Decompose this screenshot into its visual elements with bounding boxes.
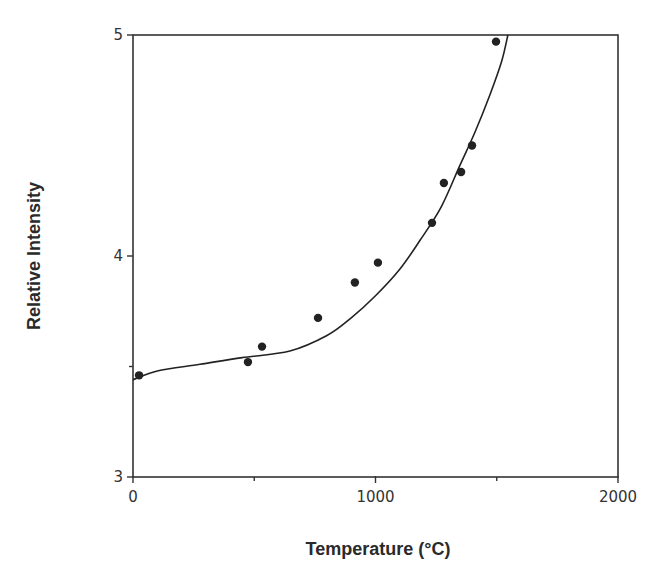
chart: 010002000 345 Temperature (°C) Relative … — [0, 0, 661, 585]
plot-frame — [133, 35, 618, 477]
data-point — [258, 342, 266, 350]
data-point — [428, 219, 436, 227]
data-point — [374, 258, 382, 266]
axis-ticks — [127, 35, 618, 483]
y-tick-label: 3 — [113, 468, 123, 486]
x-tick-labels: 010002000 — [128, 488, 637, 506]
x-tick-label: 1000 — [356, 488, 394, 506]
plot-border — [133, 35, 618, 477]
y-tick-label: 4 — [113, 247, 123, 265]
y-axis-title: Relative Intensity — [24, 182, 44, 330]
x-tick-label: 0 — [128, 488, 138, 506]
y-tick-label: 5 — [113, 26, 123, 44]
y-tick-labels: 345 — [113, 26, 123, 486]
x-axis-title: Temperature (°C) — [306, 539, 451, 559]
data-point — [135, 371, 143, 379]
series — [133, 35, 508, 380]
data-point — [351, 278, 359, 286]
data-point — [440, 179, 448, 187]
data-point — [244, 358, 252, 366]
data-point — [468, 141, 476, 149]
fit-curve — [133, 35, 508, 380]
data-point — [457, 168, 465, 176]
data-point — [314, 314, 322, 322]
data-point — [492, 37, 500, 45]
x-tick-label: 2000 — [599, 488, 637, 506]
